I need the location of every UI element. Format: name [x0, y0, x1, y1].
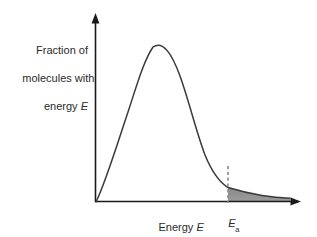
y-axis-label-line3-prefix: energy	[44, 100, 81, 112]
y-axis-label-energy-symbol: E	[81, 100, 88, 112]
x-axis-label: Energy E	[130, 206, 220, 237]
distribution-curve	[96, 45, 290, 202]
activation-energy-subscript: a	[235, 225, 239, 234]
y-axis-label-line2: molecules with	[22, 72, 94, 84]
x-axis-label-prefix: Energy	[158, 221, 196, 233]
y-axis-arrowhead	[92, 13, 100, 24]
x-axis-label-energy-symbol: E	[196, 221, 203, 233]
activation-energy-label: Ea	[213, 204, 243, 237]
maxwell-boltzmann-distribution-figure: Fraction of molecules with energy E Ener…	[0, 0, 317, 237]
x-axis-arrowhead	[291, 197, 302, 205]
y-axis-label: Fraction of molecules with energy E	[10, 29, 88, 127]
y-axis-label-line1: Fraction of	[36, 44, 88, 56]
